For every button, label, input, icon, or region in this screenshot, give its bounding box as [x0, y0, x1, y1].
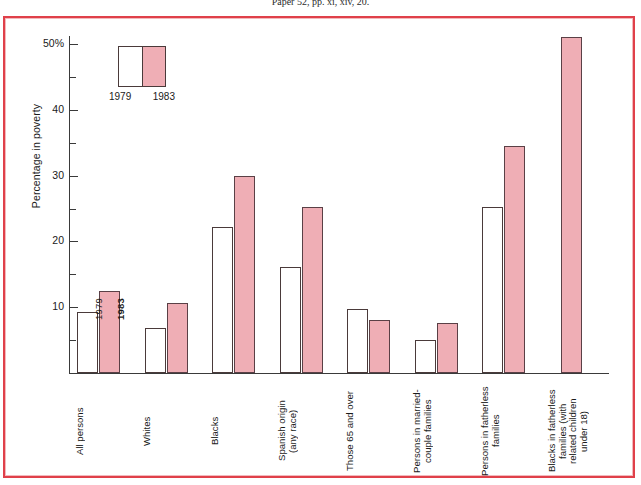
category-label-7: Blacks in fatherless families (with rela… — [547, 385, 595, 477]
legend-swatch-1983 — [142, 46, 167, 87]
y-tick-major-30 — [69, 176, 78, 177]
y-tick-major-50 — [69, 44, 78, 45]
bar-1983-6 — [504, 146, 525, 373]
y-axis-line — [69, 36, 70, 374]
y-tick-label-10: 10 — [20, 300, 64, 312]
bar-1979-3 — [280, 267, 301, 373]
bar-1983-3 — [302, 207, 323, 373]
legend-label-1979: 1979 — [109, 91, 131, 102]
y-tick-major-10 — [69, 307, 78, 308]
category-label-3: Spanish origin (any race) — [277, 385, 325, 477]
y-tick-minor-15 — [69, 274, 76, 275]
bar-1983-5 — [437, 323, 458, 373]
inline-bar-label-1983: 1983 — [115, 298, 126, 320]
bar-1979-5 — [415, 340, 436, 373]
bar-1979-4 — [347, 309, 368, 373]
bar-1983-4 — [369, 320, 390, 373]
bar-1983-2 — [234, 176, 255, 373]
year-legend: 1979 1983 — [118, 46, 168, 102]
poverty-bar-chart: Percentage in poverty 50%40302010 197919… — [0, 0, 641, 485]
y-tick-major-40 — [69, 110, 78, 111]
y-tick-minor-45 — [69, 77, 76, 78]
y-tick-label-20: 20 — [20, 234, 64, 246]
category-label-6: Persons in fatherless families — [480, 385, 528, 477]
y-tick-label-30: 30 — [20, 169, 64, 181]
legend-keys: 1979 1983 — [109, 91, 175, 102]
bar-1979-0 — [77, 312, 98, 373]
legend-label-1983: 1983 — [153, 91, 175, 102]
category-label-4: Those 65 and over — [345, 385, 393, 477]
x-axis-line — [69, 373, 609, 374]
y-tick-label-50: 50% — [20, 37, 64, 49]
y-tick-minor-35 — [69, 143, 76, 144]
category-label-2: Blacks — [210, 385, 258, 477]
bar-1979-6 — [482, 207, 503, 373]
y-tick-label-40: 40 — [20, 103, 64, 115]
y-tick-major-20 — [69, 241, 78, 242]
category-label-5: Persons in married- couple families — [412, 385, 460, 477]
inline-bar-label-1979: 1979 — [93, 298, 104, 320]
bar-1983-1 — [167, 303, 188, 373]
bar-1983-7 — [561, 37, 582, 373]
y-axis-title: Percentage in poverty — [30, 76, 42, 236]
legend-swatch-1979 — [118, 46, 142, 87]
legend-swatches — [118, 46, 166, 87]
bar-1979-1 — [145, 328, 166, 373]
category-label-1: Whites — [142, 385, 190, 477]
category-label-0: All persons — [75, 385, 123, 477]
y-tick-minor-25 — [69, 209, 76, 210]
y-tick-minor-5 — [69, 340, 76, 341]
bar-1979-2 — [212, 227, 233, 373]
